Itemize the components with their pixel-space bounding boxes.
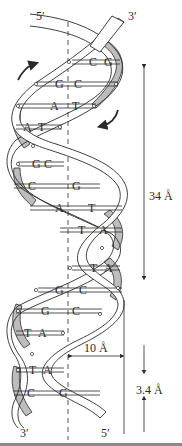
base-left: A <box>55 202 64 214</box>
base-left: T <box>24 327 31 339</box>
pitch-label: 34 Å <box>149 190 173 202</box>
base-left: T <box>90 262 97 274</box>
base-left: T <box>78 224 85 236</box>
radius-label: 10 Å <box>84 342 108 354</box>
rise-label: 3.4 Å <box>136 384 163 396</box>
base-left: C <box>28 180 36 192</box>
rotation-arrow-right <box>102 110 118 126</box>
strand-end-top-left: 5′ <box>36 10 45 22</box>
base-right: G <box>104 56 113 68</box>
strand-end-bottom-right: 5′ <box>101 427 110 439</box>
base-right: G <box>72 180 81 192</box>
base-left: G <box>55 78 64 90</box>
base-right: C <box>74 78 82 90</box>
base-right: A <box>104 262 113 274</box>
base-right: T <box>88 202 95 214</box>
base-right: A <box>99 224 108 236</box>
base-right: G <box>59 387 68 399</box>
base-right: C <box>44 158 52 170</box>
base-left: A <box>50 100 59 112</box>
base-right: A <box>38 327 47 339</box>
base-right: A <box>43 364 52 376</box>
base-left: G <box>41 305 50 317</box>
base-left: G <box>32 158 41 170</box>
dna-double-helix-diagram: C G G C A T A T G C C G A T T A T A G C … <box>0 0 182 446</box>
base-left: T <box>29 364 36 376</box>
base-left: G <box>55 284 64 296</box>
strand-end-bottom-left: 3′ <box>20 427 29 439</box>
base-left: A <box>23 121 32 133</box>
strand-end-top-right: 3′ <box>128 10 137 22</box>
base-left: C <box>27 387 35 399</box>
rotation-arrow-left <box>18 64 34 80</box>
base-right: C <box>72 305 80 317</box>
base-right: T <box>72 100 79 112</box>
base-left: C <box>89 56 97 68</box>
base-right: T <box>38 121 45 133</box>
base-right: C <box>79 284 87 296</box>
